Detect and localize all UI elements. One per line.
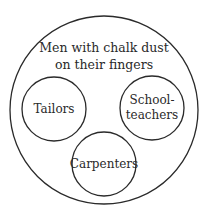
outer-label-line1: Men with chalk dust xyxy=(39,40,169,55)
label-tailors: Tailors xyxy=(33,102,74,116)
label-carpenters: Carpenters xyxy=(70,157,138,171)
label-schoolteachers-line1: School- xyxy=(129,93,174,107)
outer-label-line2: on their fingers xyxy=(55,57,153,72)
venn-diagram: Men with chalk dust on their fingers Tai… xyxy=(0,0,207,215)
label-schoolteachers-line2: teachers xyxy=(126,108,179,122)
